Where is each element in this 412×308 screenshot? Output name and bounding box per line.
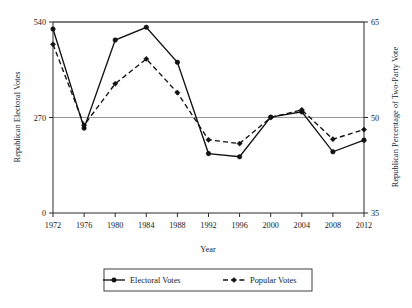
left-tick-label: 0 bbox=[42, 209, 46, 218]
x-tick-label: 2000 bbox=[263, 221, 279, 230]
x-tick-label: 1992 bbox=[200, 221, 216, 230]
legend: Electoral VotesPopular Votes bbox=[103, 269, 312, 291]
x-tick-label: 2008 bbox=[325, 221, 341, 230]
data-point-marker bbox=[175, 60, 180, 65]
data-point-marker bbox=[144, 25, 149, 30]
y2-axis-title: Republican Percentage of Two-Party Vote bbox=[391, 47, 400, 188]
x-tick-label: 1980 bbox=[107, 221, 123, 230]
x-tick-label: 2004 bbox=[294, 221, 310, 230]
line-chart: 0270540 355065 1972197619801984198819921… bbox=[0, 0, 412, 308]
left-tick-label: 270 bbox=[34, 114, 46, 123]
x-tick-label: 1976 bbox=[76, 221, 92, 230]
data-point-marker bbox=[113, 38, 118, 43]
left-tick-label: 540 bbox=[34, 18, 46, 27]
legend-label: Popular Votes bbox=[250, 276, 296, 285]
x-tick-label: 1996 bbox=[231, 221, 247, 230]
x-tick-label: 1988 bbox=[169, 221, 185, 230]
x-axis-title: Year bbox=[200, 245, 216, 254]
x-tick-label: 2012 bbox=[356, 221, 372, 230]
data-point-marker bbox=[51, 27, 56, 32]
legend-label: Electoral Votes bbox=[130, 276, 181, 285]
x-tick-label: 1984 bbox=[138, 221, 154, 230]
data-point-marker bbox=[237, 154, 242, 159]
data-point-marker bbox=[362, 138, 367, 143]
chart-container: 0270540 355065 1972197619801984198819921… bbox=[0, 0, 412, 308]
right-tick-label: 65 bbox=[371, 18, 379, 27]
x-tick-label: 1972 bbox=[45, 221, 61, 230]
right-tick-label: 35 bbox=[371, 209, 379, 218]
legend-marker bbox=[112, 278, 117, 283]
data-point-marker bbox=[206, 151, 211, 156]
y-axis-title: Republican Electoral Votes bbox=[13, 72, 22, 163]
right-tick-label: 50 bbox=[371, 114, 379, 123]
data-point-marker bbox=[331, 150, 336, 155]
